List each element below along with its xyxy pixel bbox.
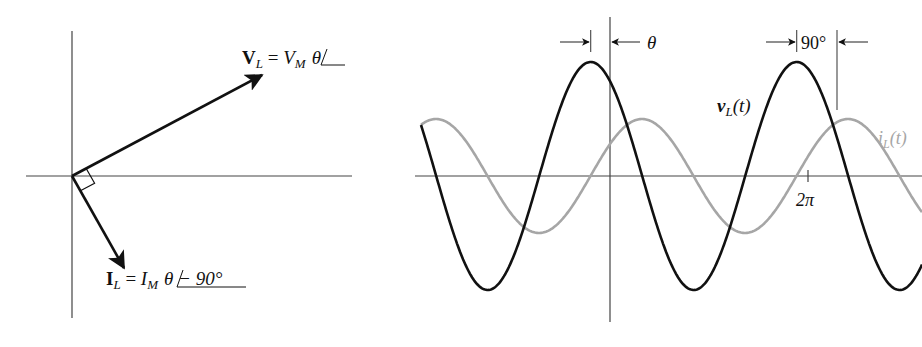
voltage-phasor-arrow [72,75,262,176]
current-phasor-arrow [72,176,124,268]
phasor-diagram: VL = VMθ IL = IMθ − 90° [26,31,352,318]
voltage-curve-label: vL(t) [717,95,751,119]
current-curve-label: iL(t) [878,128,907,151]
voltage-angle-symbol [321,49,345,65]
figure-canvas: VL = VMθ IL = IMθ − 90° 2π θ 90° vL(t) i… [0,0,922,347]
theta-label: θ [647,32,656,53]
current-phasor-label: IL = IMθ − 90° [106,268,223,292]
waveform-plot: 2π θ 90° vL(t) iL(t) [415,17,922,322]
voltage-phasor-label: VL = VMθ [242,47,321,71]
two-pi-tick-label: 2π [796,190,815,210]
phase-difference-label: 90° [801,33,826,53]
